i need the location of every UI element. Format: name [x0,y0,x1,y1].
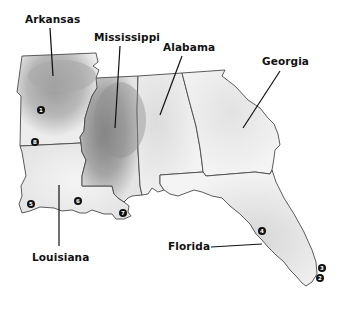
state-florida[interactable] [160,170,317,286]
label-arkansas: Arkansas [25,13,80,25]
svg-text:6: 6 [76,198,80,204]
label-louisiana: Louisiana [32,251,89,263]
marker-2[interactable]: 2 [316,274,324,282]
marker-6[interactable]: 6 [74,197,82,205]
marker-1[interactable]: 1 [37,106,45,114]
label-alabama: Alabama [163,41,215,53]
florida-leader [211,244,262,247]
marker-3[interactable]: 3 [318,264,326,272]
label-florida: Florida [168,240,210,252]
svg-text:5: 5 [29,201,33,207]
marker-7[interactable]: 7 [119,209,127,217]
svg-text:7: 7 [121,210,125,216]
arkansas-wash [28,60,96,92]
svg-text:4: 4 [260,228,264,234]
mississippi-wash [94,82,146,158]
svg-text:2: 2 [318,275,322,281]
label-mississippi: Mississippi [94,31,160,43]
svg-text:8: 8 [33,139,37,145]
label-georgia: Georgia [262,55,309,67]
svg-text:3: 3 [320,265,324,271]
svg-text:1: 1 [39,107,43,113]
marker-5[interactable]: 5 [27,200,35,208]
marker-8[interactable]: 8 [31,138,39,146]
marker-4[interactable]: 4 [258,227,266,235]
